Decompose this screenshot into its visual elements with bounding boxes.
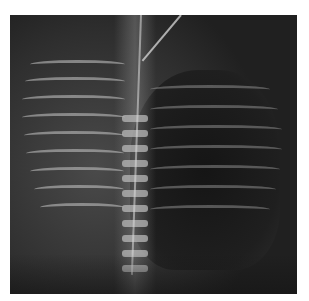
rib <box>30 167 124 176</box>
vertebra <box>122 115 148 122</box>
rib <box>150 125 282 134</box>
rib <box>25 77 125 86</box>
vertebra <box>122 220 148 227</box>
rib <box>150 85 270 94</box>
rib <box>22 113 125 122</box>
rib <box>26 149 124 158</box>
abdomen-shadow <box>10 254 297 294</box>
rib <box>150 105 278 114</box>
rib <box>40 203 124 212</box>
rib <box>150 185 276 194</box>
rib <box>34 185 124 194</box>
rib <box>22 95 125 104</box>
rib <box>30 60 125 69</box>
rib <box>150 205 270 214</box>
rib <box>150 145 282 154</box>
xray-image <box>10 15 297 294</box>
rib <box>24 131 124 140</box>
rib <box>150 165 280 174</box>
vertebra <box>122 235 148 242</box>
